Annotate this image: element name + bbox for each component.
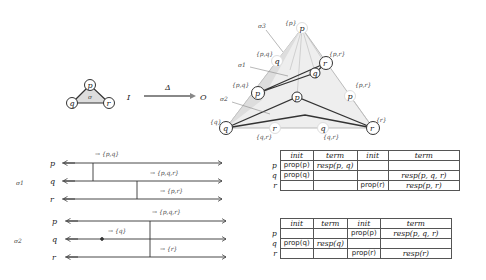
svg-text:→ {p,q,r}: → {p,q,r}	[152, 208, 181, 216]
execution-diagrams	[62, 163, 226, 257]
svg-text:→ {p,q}: → {p,q}	[95, 150, 119, 158]
header-term: term	[388, 151, 459, 161]
svg-text:→ {p,q,r}: → {p,q,r}	[150, 169, 179, 177]
svg-text:r: r	[50, 195, 55, 204]
svg-text:r: r	[52, 253, 57, 262]
table-row: q prop(q) resp(p, q, r)	[269, 171, 459, 181]
svg-text:q: q	[223, 124, 228, 133]
svg-text:O: O	[200, 93, 207, 102]
svg-text:p: p	[300, 24, 305, 33]
input-complex: p q r σ	[67, 80, 115, 109]
svg-text:p: p	[88, 81, 93, 90]
svg-text:→ {p,r}: → {p,r}	[160, 187, 183, 195]
svg-text:{p}: {p}	[285, 19, 297, 27]
run-table-sigma1: init term init term p prop(p)resp(p, q) …	[269, 150, 460, 191]
table-row: r prop(r)resp(r)	[269, 249, 451, 259]
svg-text:q: q	[313, 69, 318, 78]
table-row: r prop(r)resp(p, r)	[269, 181, 459, 191]
svg-text:{q}: {q}	[210, 118, 222, 126]
table-row: p prop(p)resp(p, q, r)	[269, 229, 451, 239]
output-complex: p q r r q p p q p r q {p} {q} {r} {p,q} …	[210, 19, 387, 141]
svg-text:{p,q}: {p,q}	[256, 50, 273, 58]
svg-text:{p,r}: {p,r}	[355, 81, 371, 89]
header-term: term	[313, 219, 347, 229]
svg-text:q: q	[321, 124, 326, 133]
svg-text:σ2: σ2	[220, 95, 228, 102]
header-term: term	[313, 151, 357, 161]
svg-text:{p,q}: {p,q}	[232, 81, 249, 89]
svg-text:p: p	[348, 92, 353, 101]
table-row: q prop(q)resp(q)	[269, 239, 451, 249]
header-init: init	[280, 219, 313, 229]
svg-text:σ3: σ3	[258, 22, 266, 29]
svg-text:σ1: σ1	[238, 61, 246, 68]
svg-text:q: q	[275, 57, 280, 66]
svg-text:→ {q}: → {q}	[108, 227, 127, 235]
execution-labels: p q r σ1 → {p,q} → {p,q,r} → {p,r} p q r…	[14, 150, 183, 262]
svg-text:→ {r}: → {r}	[160, 245, 178, 252]
table-row: p prop(p)resp(p, q)	[269, 161, 459, 171]
svg-text:p: p	[52, 217, 57, 226]
svg-text:σ1: σ1	[16, 179, 24, 186]
svg-text:{p,r}: {p,r}	[329, 50, 345, 58]
map-arrow: I Δ O	[126, 83, 207, 102]
svg-text:q: q	[70, 99, 75, 108]
svg-text:q: q	[50, 177, 55, 186]
svg-text:q: q	[52, 235, 57, 244]
header-init: init	[357, 151, 388, 161]
run-table-sigma2: init term init term p prop(p)resp(p, q, …	[269, 218, 452, 259]
svg-text:{q,r}: {q,r}	[323, 133, 339, 141]
svg-text:I: I	[126, 93, 131, 102]
header-init: init	[280, 151, 313, 161]
svg-text:p: p	[255, 89, 260, 98]
header-init: init	[347, 219, 380, 229]
svg-text:{q,r}: {q,r}	[256, 133, 272, 141]
svg-text:σ2: σ2	[14, 237, 22, 244]
svg-text:Δ: Δ	[164, 83, 171, 92]
svg-text:p: p	[50, 159, 55, 168]
svg-text:p: p	[295, 93, 300, 102]
svg-text:{r}: {r}	[376, 116, 387, 123]
header-term: term	[380, 219, 451, 229]
